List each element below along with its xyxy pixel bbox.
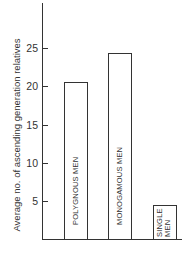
tick-5 xyxy=(42,201,48,202)
tick-10 xyxy=(42,163,48,164)
x-axis-line xyxy=(42,239,182,240)
tick-label-10: 10 xyxy=(22,157,38,169)
tick-15 xyxy=(42,125,48,126)
tick-label-5: 5 xyxy=(22,195,38,207)
tick-label-20: 20 xyxy=(22,80,38,92)
bar-label-single-line2: MEN xyxy=(164,208,172,237)
bar-label-single-men: SINGLE MEN xyxy=(156,208,172,237)
tick-25 xyxy=(42,48,48,49)
y-axis-line xyxy=(42,3,43,240)
bar-chart: Average no. of ascending generation rela… xyxy=(0,0,195,253)
tick-label-25: 25 xyxy=(22,42,38,54)
tick-label-15: 15 xyxy=(22,119,38,131)
y-axis-label: Average no. of ascending generation rela… xyxy=(11,38,22,231)
tick-20 xyxy=(42,86,48,87)
bar-label-polygnous-men: POLYGNOUS MEN xyxy=(71,157,80,225)
bar-label-monogamous-men: MONOGAMOUS MEN xyxy=(115,147,124,225)
